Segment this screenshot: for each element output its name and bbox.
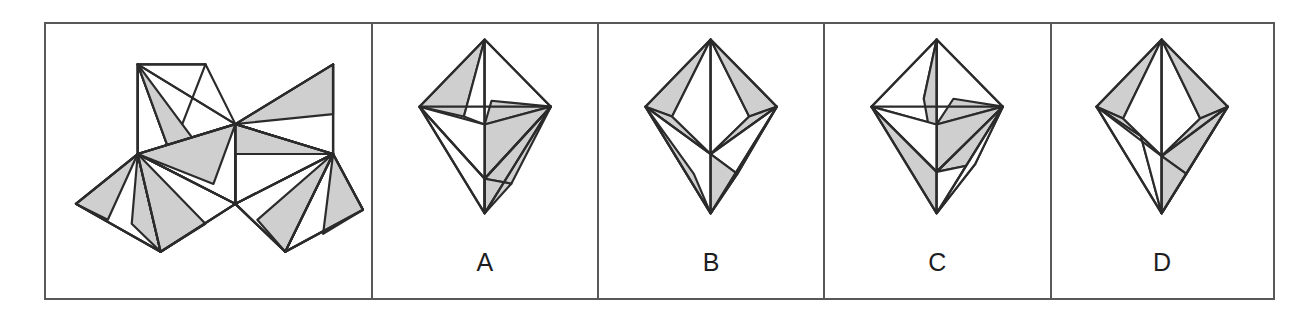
option-d-label: D [1052,248,1273,276]
panel-option-b[interactable]: B [597,24,823,298]
option-c-label: C [825,248,1049,276]
octahedron-net-figure [46,24,371,298]
question-screenshot: A [0,0,1315,327]
option-a-label: A [373,248,597,276]
panel-option-c[interactable]: C [823,24,1049,298]
panel-net-stimulus[interactable] [46,24,371,298]
question-frame: A [44,22,1275,300]
option-b-label: B [599,248,823,276]
panel-option-a[interactable]: A [371,24,597,298]
panel-option-d[interactable]: D [1050,24,1273,298]
